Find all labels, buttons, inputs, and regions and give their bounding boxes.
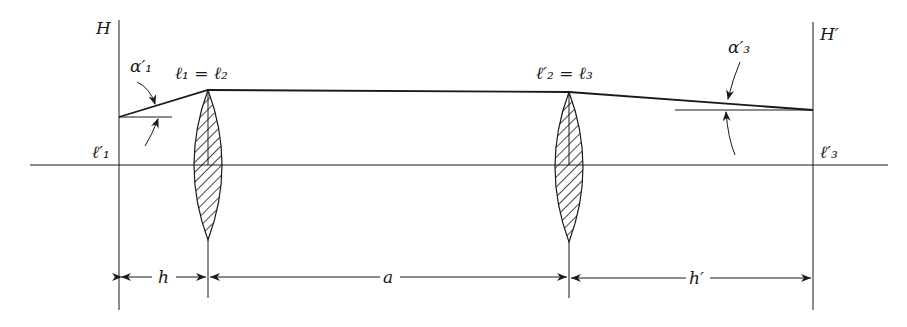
label-lens2-top: ℓ′₂ = ℓ₃ [536, 63, 593, 83]
lens-2 [555, 92, 583, 298]
label-l3-prime: ℓ′₃ [820, 142, 838, 162]
label-alpha1-prime: α′₁ [130, 56, 152, 76]
ray-path [119, 90, 813, 117]
alpha1-arrow-bottom [145, 119, 158, 146]
label-alpha3-prime: α′₃ [728, 37, 750, 57]
label-h-prime: H′ [819, 24, 839, 44]
label-h: H [95, 18, 112, 38]
label-dim-h-prime: h′ [689, 268, 704, 288]
optical-diagram: H H′ ℓ₁ = ℓ₂ ℓ′₂ = ℓ₃ α′₁ ℓ′₁ α′₃ ℓ′₃ h [0, 0, 907, 327]
label-l1-prime: ℓ′₁ [92, 142, 110, 162]
label-dim-a: a [383, 267, 393, 287]
label-dim-h: h [158, 267, 169, 287]
label-lens1-top: ℓ₁ = ℓ₂ [175, 63, 228, 83]
alpha3-arrow-top [728, 62, 740, 99]
alpha3-arrow-bottom [726, 112, 735, 155]
lens-1 [194, 90, 222, 298]
alpha1-arrow-top [137, 82, 155, 104]
